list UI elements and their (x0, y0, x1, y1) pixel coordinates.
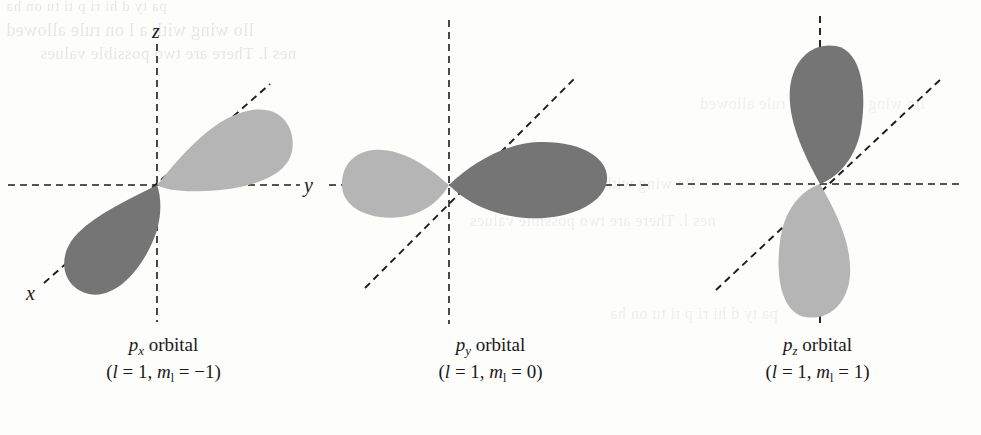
quantum-l-symbol: l (445, 361, 450, 382)
comma-sign: , (807, 361, 812, 382)
orbital-panel-pz: pz orbital (l = 1, ml = 1) (654, 0, 981, 435)
orbital-diagram-px: z y x (0, 0, 327, 330)
orbital-symbol: p (456, 334, 466, 355)
comma-sign: , (480, 361, 485, 382)
caption-quantum-numbers: (l = 1, ml = −1) (0, 359, 327, 386)
equals-sign: = (123, 361, 134, 382)
orbital-subscript: z (793, 343, 798, 358)
orbital-panel-py: py orbital (l = 1, ml = 0) (327, 0, 654, 435)
orbital-symbol: p (783, 334, 793, 355)
orbital-caption-py: py orbital (l = 1, ml = 0) (327, 332, 654, 386)
equals-sign: = (179, 361, 190, 382)
orbital-word: orbital (802, 334, 852, 355)
orbital-word: orbital (476, 334, 526, 355)
quantum-m-subscript: l (503, 370, 506, 384)
orbital-lobe-light (342, 150, 449, 218)
quantum-m-symbol: m (157, 361, 171, 382)
paren-close: ) (536, 361, 542, 382)
axis-label-z: z (151, 20, 160, 42)
equals-sign: = (782, 361, 793, 382)
orbital-subscript: y (465, 343, 471, 358)
caption-quantum-numbers: (l = 1, ml = 1) (654, 359, 981, 386)
quantum-m-symbol: m (816, 361, 830, 382)
equals-sign: = (455, 361, 466, 382)
caption-orbital-name: px orbital (0, 332, 327, 359)
orbital-subscript: x (138, 343, 144, 358)
orbital-caption-pz: pz orbital (l = 1, ml = 1) (654, 332, 981, 386)
orbital-diagram-pz (654, 0, 981, 330)
quantum-l-symbol: l (112, 361, 117, 382)
orbital-lobe-light (779, 184, 851, 318)
quantum-m-symbol: m (489, 361, 503, 382)
comma-sign: , (147, 361, 152, 382)
equals-sign: = (838, 361, 849, 382)
quantum-l-value: 1 (470, 361, 480, 382)
orbital-word: orbital (149, 334, 199, 355)
quantum-m-value: −1 (194, 361, 214, 382)
paren-close: ) (215, 361, 221, 382)
axis-label-x: x (25, 282, 35, 304)
orbital-panel-px: z y x px orbital (l = 1, ml = −1) (0, 0, 327, 435)
orbital-caption-px: px orbital (l = 1, ml = −1) (0, 332, 327, 386)
orbital-figure: pa ty d hi ri p ti tu on ha llo wing wit… (0, 0, 981, 435)
orbital-symbol: p (129, 334, 139, 355)
orbital-lobe-dark (449, 142, 607, 218)
caption-orbital-name: py orbital (327, 332, 654, 359)
caption-orbital-name: pz orbital (654, 332, 981, 359)
orbital-lobe-light (157, 109, 293, 191)
equals-sign: = (511, 361, 522, 382)
paren-close: ) (863, 361, 869, 382)
quantum-m-subscript: l (171, 370, 174, 384)
quantum-l-value: 1 (797, 361, 807, 382)
orbital-lobe-dark (64, 185, 160, 295)
caption-quantum-numbers: (l = 1, ml = 0) (327, 359, 654, 386)
quantum-l-symbol: l (772, 361, 777, 382)
axis-label-y: y (302, 174, 313, 197)
quantum-m-value: 1 (854, 361, 864, 382)
quantum-m-value: 0 (527, 361, 537, 382)
quantum-m-subscript: l (830, 370, 833, 384)
orbital-diagram-py (327, 0, 654, 330)
